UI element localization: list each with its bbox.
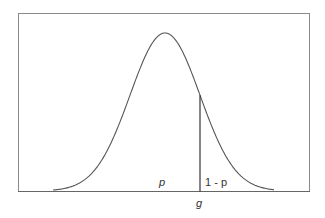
plot-frame: [19, 14, 310, 192]
threshold-label: g: [196, 197, 203, 209]
bell-curve: [53, 33, 274, 190]
right-area-label: 1 - p: [205, 176, 227, 188]
normal-distribution-figure: p 1 - p g: [0, 0, 325, 218]
left-area-label: p: [158, 176, 165, 188]
